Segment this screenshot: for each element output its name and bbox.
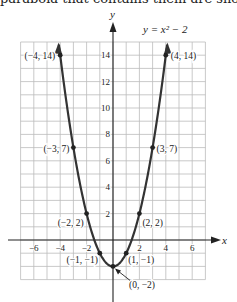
x-tick-label: −2	[82, 243, 92, 253]
y-tick-label: 2	[106, 209, 111, 219]
data-point	[97, 251, 102, 256]
y-axis-label: y	[109, 8, 115, 20]
data-point	[84, 211, 89, 216]
y-tick-label: 8	[106, 129, 111, 139]
parabola-chart: −6−4−22462468101214 (−4, 14)(−3, 7)(−2, …	[0, 0, 237, 302]
data-point	[150, 145, 155, 150]
point-label: (−1, −1)	[67, 255, 98, 266]
x-tick-label: 2	[137, 243, 142, 253]
point-label: (4, 14)	[171, 51, 196, 62]
point-label: (−4, 14)	[25, 51, 56, 62]
point-label: (2, 2)	[142, 218, 163, 229]
vertex-pointer-arrow-icon	[115, 268, 121, 274]
data-point	[71, 145, 76, 150]
x-tick-label: 6	[190, 243, 195, 253]
point-label: (1, −1)	[128, 255, 154, 266]
data-point	[163, 53, 168, 58]
y-tick-label: 12	[101, 77, 110, 87]
y-tick-label: 6	[106, 156, 111, 166]
point-label: (−3, 7)	[43, 144, 69, 155]
data-point	[111, 264, 116, 269]
y-axis-arrow-icon	[110, 22, 117, 32]
y-tick-label: 14	[101, 50, 111, 60]
equation-label: y = x² − 2	[142, 23, 188, 35]
axes	[8, 22, 221, 302]
x-tick-label: −6	[29, 243, 39, 253]
point-label: (0, −2)	[129, 280, 155, 291]
data-point	[58, 53, 63, 58]
y-tick-label: 10	[101, 103, 111, 113]
point-labels: (−4, 14)(−3, 7)(−2, 2)(−1, −1)(0, −2)(1,…	[25, 51, 197, 291]
x-axis-label: x	[221, 234, 227, 246]
x-axis-arrow-icon	[211, 237, 221, 244]
y-tick-label: 4	[106, 182, 111, 192]
x-tick-label: 4	[164, 243, 169, 253]
point-label: (3, 7)	[157, 144, 178, 155]
curve-arrow-left-icon	[55, 42, 63, 54]
x-tick-label: −4	[55, 243, 65, 253]
data-point	[137, 211, 142, 216]
point-label: (−2, 2)	[58, 218, 84, 229]
